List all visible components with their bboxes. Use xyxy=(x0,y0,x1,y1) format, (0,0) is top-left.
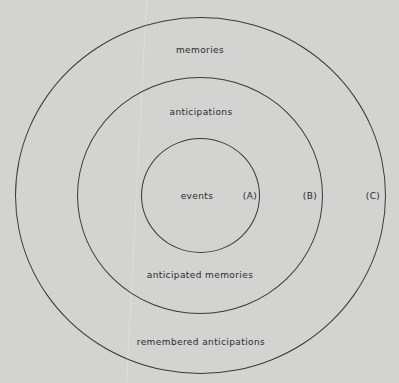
label-anticipated-memories: anticipated memories xyxy=(147,270,254,280)
marker-b: (B) xyxy=(303,191,317,201)
label-memories: memories xyxy=(176,45,224,55)
label-remembered-anticipations: remembered anticipations xyxy=(137,337,265,347)
concentric-diagram: memories anticipations events (A) (B) (C… xyxy=(0,0,399,383)
marker-c: (C) xyxy=(366,191,381,201)
marker-a: (A) xyxy=(243,191,257,201)
label-events: events xyxy=(181,191,214,201)
label-anticipations: anticipations xyxy=(169,107,232,117)
